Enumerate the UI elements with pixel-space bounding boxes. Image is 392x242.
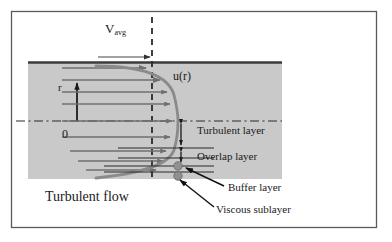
turbulent-flow-diagram	[0, 0, 392, 242]
overlap-layer-label: Overlap layer	[197, 151, 257, 162]
v-avg-subscript: avg	[114, 28, 126, 37]
turbulent-layer-label: Turbulent layer	[197, 125, 265, 136]
radial-axis-label: r	[58, 82, 62, 93]
v-avg-label: Vavg	[105, 22, 126, 37]
velocity-function-label: u(r)	[173, 70, 191, 82]
buffer-layer-node-dot	[174, 162, 182, 170]
buffer-layer-label: Buffer layer	[228, 182, 281, 193]
turbulent-flow-label: Turbulent flow	[45, 190, 129, 204]
origin-label: 0	[62, 128, 68, 140]
v-avg-symbol: V	[105, 21, 114, 36]
viscous-sublayer-node-dot	[174, 172, 182, 180]
viscous-sublayer-label: Viscous sublayer	[216, 204, 291, 215]
